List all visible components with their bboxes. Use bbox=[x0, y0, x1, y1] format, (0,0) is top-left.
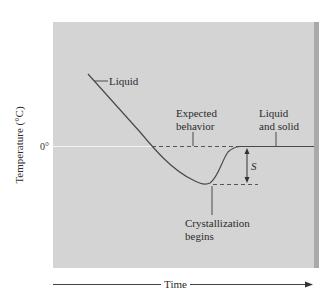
zero-tick-label: 0° bbox=[40, 141, 49, 152]
liquid-solid-label-line2: and solid bbox=[259, 120, 300, 132]
x-axis-label: Time bbox=[164, 278, 187, 290]
expected-label-line1: Expected bbox=[176, 107, 217, 119]
supercooling-label: S bbox=[251, 160, 257, 172]
plot-panel bbox=[53, 22, 314, 268]
expected-label-line2: behavior bbox=[176, 120, 215, 132]
crystallization-label-line1: Crystallization bbox=[185, 217, 250, 229]
crystallization-label-line2: begins bbox=[185, 230, 214, 242]
liquid-label: Liquid bbox=[109, 75, 139, 87]
liquid-solid-label-line1: Liquid bbox=[259, 107, 289, 119]
cooling-curve-figure: S Liquid Expected behavior Liquid and so… bbox=[0, 0, 332, 299]
y-axis-label: Temperature (°C) bbox=[13, 106, 26, 184]
